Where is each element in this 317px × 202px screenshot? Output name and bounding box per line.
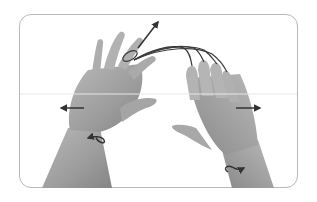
left-hand	[42, 32, 157, 188]
up-right-arrow-icon	[138, 22, 158, 48]
figure: Two hands performing a finger extension …	[0, 0, 317, 202]
hands-illustration	[0, 0, 317, 202]
right-hand	[172, 60, 274, 188]
